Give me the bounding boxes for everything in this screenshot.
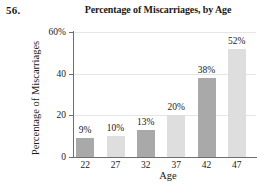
x-tick-label: 47 (221, 160, 253, 171)
figure-container: 56. Percentage of Miscarriages, by Age P… (0, 0, 262, 185)
x-tick-label: 37 (160, 160, 192, 171)
gridline (74, 32, 256, 33)
bar (137, 130, 155, 157)
bar-value-label: 10% (100, 123, 132, 134)
y-tick-label: 40 (57, 69, 67, 79)
y-tick-label: 20 (57, 110, 67, 120)
y-tick-label: 0 (61, 152, 66, 162)
bar (228, 49, 246, 157)
problem-number: 56. (6, 3, 20, 17)
bar-value-label: 52% (221, 36, 253, 47)
bar-value-label: 9% (69, 125, 101, 136)
plot-area: 9%10%13%20%38%52% (74, 32, 256, 157)
x-tick-label: 22 (69, 160, 101, 171)
bar (107, 136, 125, 157)
chart-title: Percentage of Miscarriages, by Age (56, 3, 260, 17)
bar (198, 78, 216, 157)
x-axis-title: Age (78, 170, 258, 182)
x-tick-label: 32 (130, 160, 162, 171)
y-axis-title: Percentage of Miscarriages (30, 33, 42, 163)
y-tick-mark (69, 157, 74, 158)
bar (167, 115, 185, 157)
y-tick-label: 60% (49, 27, 66, 37)
x-tick-label: 42 (191, 160, 223, 171)
x-tick-label: 27 (100, 160, 132, 171)
bar-value-label: 13% (130, 117, 162, 128)
x-axis-line (73, 157, 257, 158)
bar-value-label: 38% (191, 65, 223, 76)
bar-value-label: 20% (160, 102, 192, 113)
bar (76, 138, 94, 157)
